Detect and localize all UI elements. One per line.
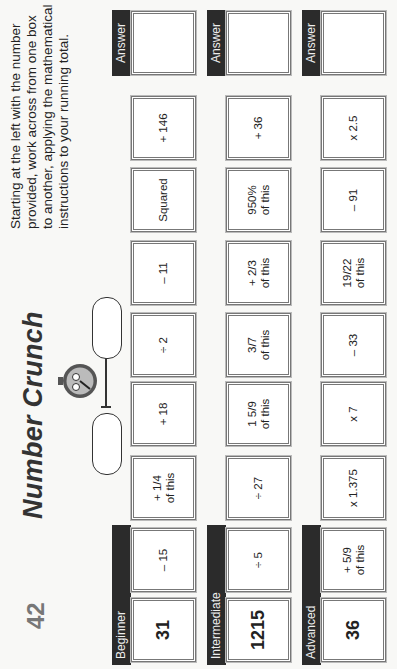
- step-box: + 146: [131, 96, 196, 160]
- step-box: + 5/9 of this: [321, 528, 386, 592]
- step-box: ÷ 2: [131, 313, 196, 377]
- advanced-row: Advanced 36 + 5/9 of this x 1.375 x 7 – …: [302, 0, 392, 669]
- step-box: ÷ 5: [226, 528, 291, 592]
- level-label: Intermediate: [207, 525, 226, 665]
- step-box: 1 5/9 of this: [226, 382, 291, 446]
- step-text: 19/22 of this: [341, 258, 367, 289]
- step-text: x 7: [347, 406, 360, 421]
- step-text: x 1.375: [347, 469, 360, 507]
- step-text: Squared: [157, 178, 170, 221]
- step-text: + 2/3 of this: [246, 258, 272, 289]
- start-number: 31: [131, 598, 196, 662]
- step-box: x 1.375: [321, 456, 386, 520]
- step-box: 3/7 of this: [226, 313, 291, 377]
- step-text: 950% of this: [246, 185, 272, 216]
- level-label: Advanced: [302, 525, 321, 665]
- intermediate-row: Intermediate 1215 ÷ 5 ÷ 27 1 5/9 of this…: [207, 0, 297, 669]
- step-box: + 36: [226, 96, 291, 160]
- step-text: – 33: [347, 334, 360, 356]
- answer-label: Answer: [112, 10, 131, 76]
- stopwatch-icon: [58, 361, 98, 401]
- answer-label: Answer: [207, 10, 226, 76]
- answer-label: Answer: [302, 10, 321, 76]
- start-value: 36: [347, 620, 360, 640]
- step-box: 950% of this: [226, 168, 291, 232]
- step-text: + 36: [252, 117, 265, 140]
- level-label: Beginner: [112, 525, 131, 665]
- start-number: 1215: [226, 598, 291, 662]
- step-text: ÷ 27: [252, 477, 265, 499]
- page-title: Number Crunch: [18, 311, 49, 519]
- step-box: – 11: [131, 241, 196, 305]
- start-value: 1215: [252, 610, 265, 650]
- answer-box[interactable]: [131, 11, 196, 75]
- step-box: + 1/4 of this: [131, 456, 196, 520]
- step-box: Squared: [131, 168, 196, 232]
- puzzle-page: 42 Number Crunch Starting at the left wi…: [0, 0, 397, 669]
- step-text: + 1/4 of this: [151, 473, 177, 504]
- step-box: + 2/3 of this: [226, 241, 291, 305]
- step-text: – 15: [157, 549, 170, 571]
- step-text: ÷ 2: [157, 337, 170, 353]
- step-box: – 15: [131, 528, 196, 592]
- step-text: + 18: [157, 403, 170, 426]
- answer-box[interactable]: [226, 11, 291, 75]
- page-frame: 42 Number Crunch Starting at the left wi…: [0, 0, 397, 669]
- step-text: ÷ 5: [252, 552, 265, 568]
- step-text: – 11: [157, 262, 170, 284]
- beginner-row: Beginner 31 – 15 + 1/4 of this + 18 ÷ 2 …: [112, 0, 202, 669]
- step-box: x 7: [321, 382, 386, 446]
- step-text: 1 5/9 of this: [246, 399, 272, 430]
- step-text: – 91: [347, 189, 360, 211]
- step-box: x 2.5: [321, 96, 386, 160]
- page-number: 42: [22, 602, 50, 629]
- step-box: ÷ 27: [226, 456, 291, 520]
- start-number: 36: [321, 598, 386, 662]
- step-text: + 5/9 of this: [341, 545, 367, 576]
- step-text: + 146: [157, 113, 170, 142]
- step-box: – 91: [321, 168, 386, 232]
- instructions-text: Starting at the left with the number pro…: [8, 1, 72, 229]
- step-box: + 18: [131, 382, 196, 446]
- step-text: x 2.5: [347, 116, 360, 141]
- step-text: 3/7 of this: [246, 330, 272, 361]
- answer-box[interactable]: [321, 11, 386, 75]
- start-value: 31: [157, 620, 170, 640]
- step-box: – 33: [321, 313, 386, 377]
- step-box: 19/22 of this: [321, 241, 386, 305]
